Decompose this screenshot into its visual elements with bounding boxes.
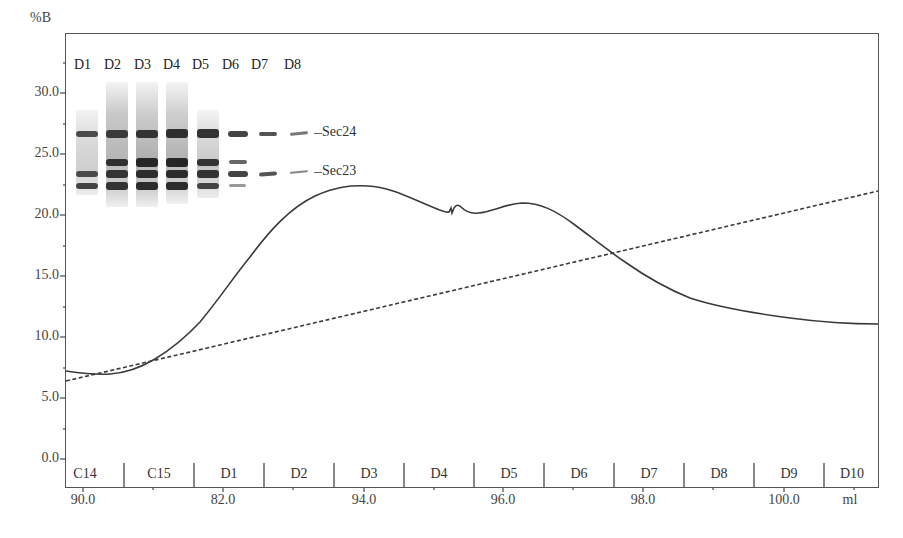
y-ticks [60, 63, 66, 459]
fraction-dividers [124, 463, 824, 487]
gradient-line [66, 191, 878, 381]
elution-profile-line [66, 186, 878, 375]
chart-svg [0, 0, 903, 538]
x-ticks [83, 487, 854, 492]
